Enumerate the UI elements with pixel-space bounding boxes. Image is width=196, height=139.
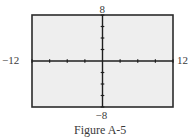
figure-caption: Figure A-5 — [74, 124, 126, 136]
x-min-label: −12 — [2, 55, 19, 66]
y-max-label: 8 — [100, 4, 106, 15]
x-max-label: 12 — [177, 55, 188, 66]
figure-a-5: 8 −8 −12 12 Figure A-5 — [0, 0, 196, 139]
y-min-label: −8 — [96, 110, 108, 121]
